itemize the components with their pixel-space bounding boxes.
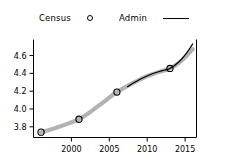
x-tick-label: 2000 <box>61 145 81 154</box>
y-tick-label: 4.4 <box>14 69 27 78</box>
chart-container: Census Admin 3.84.04.24.44.6 20002005201… <box>0 0 228 164</box>
plot-frame <box>34 40 197 138</box>
plot-area: 3.84.04.24.44.6 2000200520102015 <box>0 0 228 164</box>
y-tick-label: 3.8 <box>14 123 27 132</box>
y-axis-ticks: 3.84.04.24.44.6 <box>14 52 34 132</box>
y-tick-label: 4.6 <box>14 52 27 61</box>
data-series-layer <box>41 44 193 132</box>
x-tick-label: 2005 <box>99 145 119 154</box>
y-tick-label: 4.0 <box>14 105 27 114</box>
y-tick-label: 4.2 <box>14 87 27 96</box>
x-tick-label: 2015 <box>175 145 195 154</box>
x-axis-ticks: 2000200520102015 <box>61 138 195 154</box>
series-line-census <box>41 49 193 132</box>
x-tick-label: 2010 <box>137 145 157 154</box>
series-line-admin <box>128 44 193 87</box>
